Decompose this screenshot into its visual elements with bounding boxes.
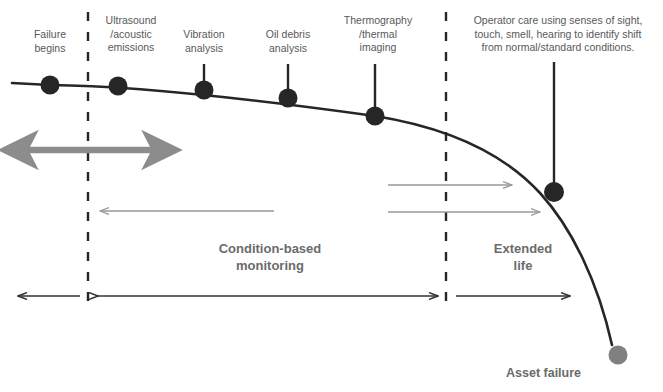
marker-label-ultrasound-acoustic-emissions: Ultrasound /acoustic emissions: [95, 14, 167, 55]
marker-label-thermography-thermal-imaging: Thermography /thermal imaging: [335, 14, 421, 55]
marker-dot-ultrasound-acoustic-emissions: [109, 77, 128, 96]
marker-label-oil-debris-analysis: Oil debris analysis: [254, 28, 322, 55]
arrows-group: [18, 150, 570, 296]
asset-failure-label: Asset failure: [506, 366, 581, 381]
marker-label-failure-begins: Failure begins: [22, 28, 78, 55]
marker-dot-thermography-thermal-imaging: [366, 107, 385, 126]
phase-label-condition-based-monitoring: Condition-based monitoring: [180, 240, 360, 274]
marker-dot-failure-begins: [41, 76, 60, 95]
operator-care-note: Operator care using senses of sight, tou…: [455, 14, 661, 55]
diagram-graphics-layer: [0, 0, 663, 392]
marker-dot-vibration-analysis: [195, 81, 214, 100]
marker-label-vibration-analysis: Vibration analysis: [172, 28, 236, 55]
marker-dot-oil-debris-analysis: [279, 89, 298, 108]
phase-label-extended-life: Extended life: [468, 240, 578, 274]
pf-curve-diagram: Failure begins Ultrasound /acoustic emis…: [0, 0, 663, 392]
asset-failure-dot: [609, 346, 628, 365]
marker-dot-operator-care: [544, 182, 564, 202]
marker-dots-group: [41, 62, 565, 202]
pf-curve-line: [12, 83, 612, 345]
